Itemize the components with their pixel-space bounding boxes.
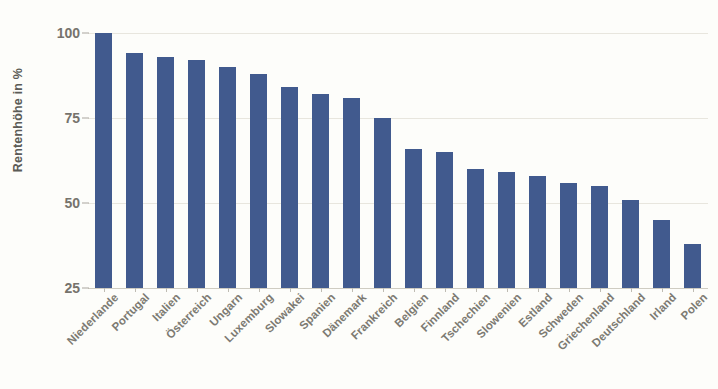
bar bbox=[95, 33, 112, 288]
x-tick-mark bbox=[321, 288, 322, 292]
gridline-75 bbox=[88, 118, 708, 119]
bar bbox=[250, 74, 267, 288]
y-axis-title: Rentenhöhe in % bbox=[6, 35, 30, 205]
plot-area bbox=[88, 33, 708, 288]
y-tick-mark bbox=[82, 33, 89, 34]
bar bbox=[498, 172, 515, 288]
x-tick-mark bbox=[352, 288, 353, 292]
x-tick-mark bbox=[197, 288, 198, 292]
y-tick-mark bbox=[82, 288, 89, 289]
bar bbox=[374, 118, 391, 288]
x-tick-mark bbox=[383, 288, 384, 292]
x-tick-mark bbox=[414, 288, 415, 292]
x-tick-mark bbox=[538, 288, 539, 292]
gridline-100 bbox=[88, 33, 708, 34]
bar bbox=[312, 94, 329, 288]
gridline-50 bbox=[88, 203, 708, 204]
x-tick-mark bbox=[445, 288, 446, 292]
x-tick-mark bbox=[600, 288, 601, 292]
bar-chart: Rentenhöhe in % 255075100 NiederlandePor… bbox=[0, 0, 718, 389]
bar bbox=[467, 169, 484, 288]
bar bbox=[653, 220, 670, 288]
x-tick-mark bbox=[135, 288, 136, 292]
bar bbox=[343, 98, 360, 288]
y-tick-label: 50 bbox=[46, 195, 80, 211]
x-tick-mark bbox=[662, 288, 663, 292]
bar bbox=[405, 149, 422, 288]
y-tick-label: 75 bbox=[46, 110, 80, 126]
bar bbox=[622, 200, 639, 288]
x-tick-mark bbox=[166, 288, 167, 292]
x-tick-mark bbox=[569, 288, 570, 292]
y-tick-label: 100 bbox=[46, 25, 80, 41]
x-tick-mark bbox=[259, 288, 260, 292]
bar bbox=[684, 244, 701, 288]
y-tick-mark bbox=[82, 203, 89, 204]
x-tick-mark bbox=[507, 288, 508, 292]
gridline-25 bbox=[88, 288, 708, 289]
y-tick-mark bbox=[82, 118, 89, 119]
x-tick-mark bbox=[228, 288, 229, 292]
bar bbox=[436, 152, 453, 288]
x-tick-mark bbox=[631, 288, 632, 292]
y-tick-label: 25 bbox=[46, 280, 80, 296]
x-tick-label: Niederlande bbox=[64, 291, 120, 347]
bar bbox=[560, 183, 577, 288]
x-tick-label: Polen bbox=[678, 291, 709, 322]
bar bbox=[219, 67, 236, 288]
bar bbox=[591, 186, 608, 288]
x-tick-mark bbox=[476, 288, 477, 292]
x-tick-mark bbox=[290, 288, 291, 292]
bar bbox=[188, 60, 205, 288]
x-tick-mark bbox=[693, 288, 694, 292]
x-axis: NiederlandePortugalItalienÖsterreichUnga… bbox=[88, 291, 708, 387]
x-tick-mark bbox=[104, 288, 105, 292]
bar bbox=[126, 53, 143, 288]
bar bbox=[529, 176, 546, 288]
x-tick-label: Irland bbox=[647, 291, 678, 322]
bar bbox=[281, 87, 298, 288]
bar bbox=[157, 57, 174, 288]
